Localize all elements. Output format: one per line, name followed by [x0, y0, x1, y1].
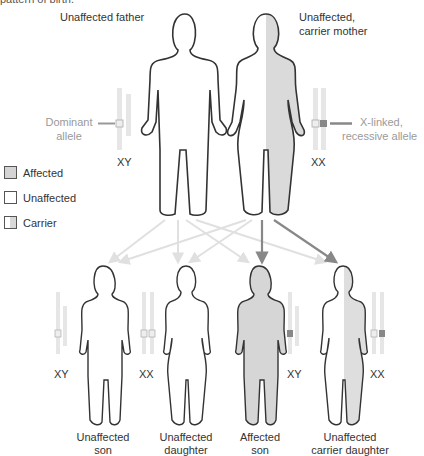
father-chromosome-label: XY	[117, 156, 132, 169]
legend-item-carrier: Carrier	[4, 216, 76, 229]
legend-label: Affected	[23, 167, 63, 179]
inheritance-arrows	[110, 220, 336, 262]
mother-figure	[228, 10, 316, 220]
mother-label-line1: Unaffected,	[299, 11, 355, 24]
child2-label-line1: Unaffected	[153, 431, 219, 444]
child4-label-line1: Unaffected	[300, 431, 400, 444]
father-body-icon	[142, 14, 227, 215]
legend: Affected Unaffected Carrier	[4, 166, 76, 229]
child2-chromosome-label: XX	[139, 368, 154, 381]
carrier-swatch	[4, 216, 17, 229]
child-unaffected-daughter	[141, 266, 210, 425]
child-carrier-daughter	[321, 260, 385, 430]
father-label: Unaffected father	[60, 11, 144, 24]
legend-label: Unaffected	[23, 192, 76, 204]
child1-label-line1: Unaffected	[70, 431, 136, 444]
child4-chromosome-label: XX	[370, 368, 385, 381]
child1-label-line2: son	[70, 444, 136, 456]
caption-fragment: pattern of birth.	[0, 0, 74, 6]
child-unaffected-son	[55, 266, 130, 425]
child3-label-line1: Affected	[230, 431, 290, 444]
father-figure	[142, 14, 227, 215]
dominant-allele-label-line1: Dominant	[40, 116, 98, 129]
dominant-allele-label-line2: allele	[40, 130, 98, 143]
child1-chromosome-label: XY	[54, 368, 69, 381]
mother-chromosome-label: XX	[311, 156, 326, 169]
legend-item-affected: Affected	[4, 166, 76, 179]
unaffected-swatch	[4, 191, 17, 204]
mother-label-line2: carrier mother	[299, 25, 367, 38]
child-affected-son	[236, 266, 299, 425]
legend-item-unaffected: Unaffected	[4, 191, 76, 204]
child3-label-line2: son	[230, 444, 290, 456]
child2-label-line2: daughter	[153, 444, 219, 456]
child3-chromosome-label: XY	[287, 368, 302, 381]
legend-label: Carrier	[23, 217, 57, 229]
recessive-allele-label-line2: recessive allele	[342, 130, 417, 143]
child4-label-line2: carrier daughter	[300, 444, 400, 456]
recessive-allele-label-line1: X-linked,	[360, 116, 403, 129]
father-chromosomes	[98, 88, 131, 150]
affected-swatch	[4, 166, 17, 179]
